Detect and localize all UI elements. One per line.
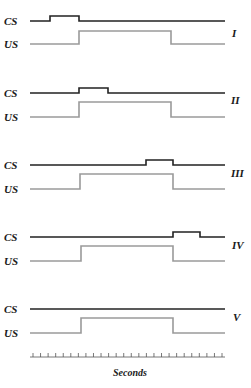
us-signal-line (30, 31, 225, 44)
panel-label: V (233, 311, 242, 323)
axis-label: Seconds (113, 367, 147, 378)
panel-label: IV (231, 239, 245, 251)
cs-label: CS (4, 87, 17, 99)
us-label: US (4, 111, 18, 123)
cs-signal-line (30, 88, 225, 93)
panel-label: III (230, 167, 245, 179)
conditioning-timing-diagram: CS US I CS US II CS US III CS US IV CS U… (0, 0, 251, 388)
us-signal-line (30, 174, 225, 189)
panel-label: II (230, 94, 240, 106)
panel-IV: CS US IV (4, 231, 245, 267)
cs-label: CS (4, 231, 17, 243)
panel-V: CS US V (4, 303, 242, 339)
cs-signal-line (30, 16, 225, 21)
us-signal-line (30, 102, 225, 117)
cs-signal-line (30, 232, 225, 237)
panel-II: CS US II (4, 87, 240, 123)
us-label: US (4, 38, 18, 50)
cs-label: CS (4, 303, 17, 315)
panel-III: CS US III (4, 159, 245, 195)
us-label: US (4, 327, 18, 339)
us-signal-line (30, 318, 225, 333)
time-axis: Seconds (30, 353, 225, 378)
us-signal-line (30, 246, 225, 261)
us-label: US (4, 183, 18, 195)
us-label: US (4, 255, 18, 267)
cs-signal-line (30, 160, 225, 165)
panel-I: CS US I (4, 15, 237, 50)
cs-label: CS (4, 15, 17, 27)
panel-label: I (231, 27, 237, 39)
axis-ticks (33, 353, 222, 357)
cs-label: CS (4, 159, 17, 171)
